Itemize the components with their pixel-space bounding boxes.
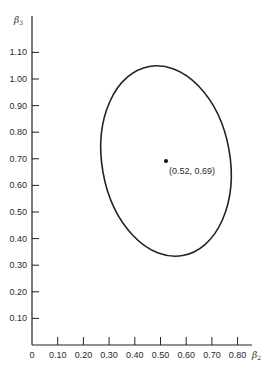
y-tick-label: 1.10 (9, 47, 27, 57)
x-axis-ticks: 00.100.200.300.400.500.600.700.80 (29, 337, 246, 360)
y-tick-label: 0.80 (9, 127, 27, 137)
y-tick-label: 0.90 (9, 101, 27, 111)
x-tick-label: 0.20 (75, 350, 93, 360)
y-tick-label: 0.50 (9, 207, 27, 217)
y-tick-label: 1.00 (9, 74, 27, 84)
y-tick-label: 0.10 (9, 313, 27, 323)
x-tick-label: 0.60 (177, 350, 195, 360)
point-label: (0.52, 0.69) (169, 166, 215, 176)
y-tick-label: 0.60 (9, 180, 27, 190)
y-tick-label: 0.70 (9, 154, 27, 164)
y-tick-label: 0.40 (9, 234, 27, 244)
x-tick-label: 0.10 (49, 350, 67, 360)
x-tick-label: 0.70 (203, 350, 221, 360)
chart: 0.100.200.300.400.500.600.700.800.901.00… (0, 0, 265, 367)
y-tick-label: 0.20 (9, 287, 27, 297)
x-tick-label: 0.30 (100, 350, 118, 360)
y-tick-label: 0.30 (9, 260, 27, 270)
y-axis-ticks: 0.100.200.300.400.500.600.700.800.901.00… (9, 47, 39, 323)
point-estimate (164, 159, 168, 163)
y-axis-title: β3 (13, 15, 23, 26)
x-tick-label: 0.80 (229, 350, 247, 360)
x-axis-title: β2 (251, 350, 261, 361)
x-tick-label: 0 (29, 350, 34, 360)
x-tick-label: 0.50 (152, 350, 170, 360)
x-tick-label: 0.40 (126, 350, 144, 360)
